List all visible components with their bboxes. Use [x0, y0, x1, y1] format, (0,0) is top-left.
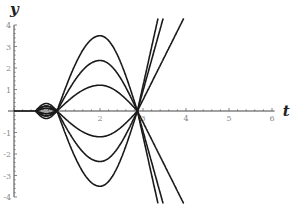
x-tick-label: 6 — [269, 114, 274, 123]
x-tick-label: 2 — [97, 114, 102, 123]
y-tick-label: -2 — [3, 150, 11, 159]
solution-curve-6 — [36, 111, 159, 203]
x-tick-label: 5 — [226, 114, 231, 123]
y-tick-label: -1 — [3, 129, 11, 138]
y-axis-label: y — [9, 0, 20, 18]
solution-curve-3 — [36, 19, 159, 112]
axes: 4321-1-2-3-423456 — [3, 21, 274, 202]
x-tick-label: 4 — [183, 114, 188, 123]
y-tick-label: 1 — [6, 86, 11, 95]
chart: 4321-1-2-3-423456 t y — [0, 0, 291, 205]
y-tick-label: -4 — [3, 193, 11, 202]
y-tick-label: 3 — [6, 43, 11, 52]
y-tick-label: 4 — [6, 21, 11, 30]
x-axis-label: t — [283, 102, 290, 120]
y-tick-label: -3 — [3, 172, 11, 181]
y-tick-label: 2 — [6, 64, 11, 73]
